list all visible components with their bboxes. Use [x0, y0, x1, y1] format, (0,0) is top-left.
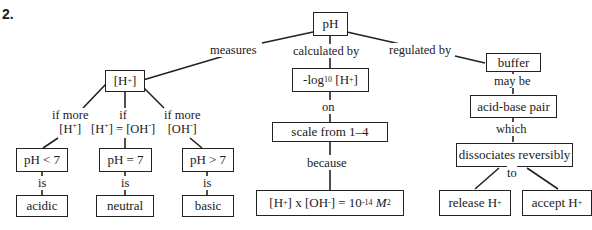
node-buffer-label: buffer	[498, 55, 530, 71]
node-dissociates: dissociates reversibly	[456, 143, 573, 167]
node-neg-log: -log10 [H+]	[292, 68, 369, 92]
node-ph: pH	[313, 12, 348, 36]
link-is-acidic: is	[38, 176, 46, 190]
link-if-equal: if[H+] = [OH-]	[91, 108, 155, 136]
node-buffer: buffer	[486, 53, 541, 72]
node-acidic: acidic	[16, 195, 68, 217]
node-scale: scale from 1–4	[272, 122, 388, 142]
node-ph-label: pH	[323, 16, 339, 32]
link-if-more-oh: if more[OH-]	[164, 108, 200, 136]
node-ph-eq7-label: pH = 7	[107, 152, 143, 168]
node-ph-gt7-label: pH > 7	[190, 152, 226, 168]
node-release: release H+	[439, 190, 511, 216]
node-neutral: neutral	[96, 195, 154, 217]
node-accept: accept H+	[522, 190, 592, 216]
node-ph-lt7: pH < 7	[16, 148, 68, 172]
link-on: on	[322, 100, 335, 114]
question-number: 2.	[2, 6, 14, 22]
node-basic-label: basic	[195, 198, 222, 214]
node-ph-lt7-label: pH < 7	[24, 152, 60, 168]
node-acid-base-pair: acid-base pair	[470, 95, 557, 118]
node-basic: basic	[182, 195, 234, 217]
link-to: to	[507, 166, 517, 180]
link-is-basic: is	[203, 176, 211, 190]
link-may-be: may be	[494, 74, 530, 88]
node-h-ion: [H+]	[105, 70, 145, 92]
node-neutral-label: neutral	[107, 198, 143, 214]
node-ph-eq7: pH = 7	[99, 148, 152, 172]
node-dissociates-label: dissociates reversibly	[459, 147, 571, 163]
link-is-neutral: is	[121, 176, 129, 190]
node-ion-product: [H+] x [OH-] = 10-14 M2	[256, 190, 404, 216]
link-if-more-h: if more[H+]	[52, 108, 88, 136]
node-ph-gt7: pH > 7	[182, 148, 234, 172]
link-measures: measures	[210, 43, 257, 57]
node-scale-label: scale from 1–4	[291, 124, 368, 140]
link-which: which	[496, 122, 527, 136]
node-acid-base-pair-label: acid-base pair	[477, 99, 550, 115]
node-acidic-label: acidic	[26, 198, 57, 214]
link-regulated-by: regulated by	[389, 43, 451, 57]
link-because: because	[307, 156, 347, 170]
link-calculated-by: calculated by	[293, 44, 359, 58]
